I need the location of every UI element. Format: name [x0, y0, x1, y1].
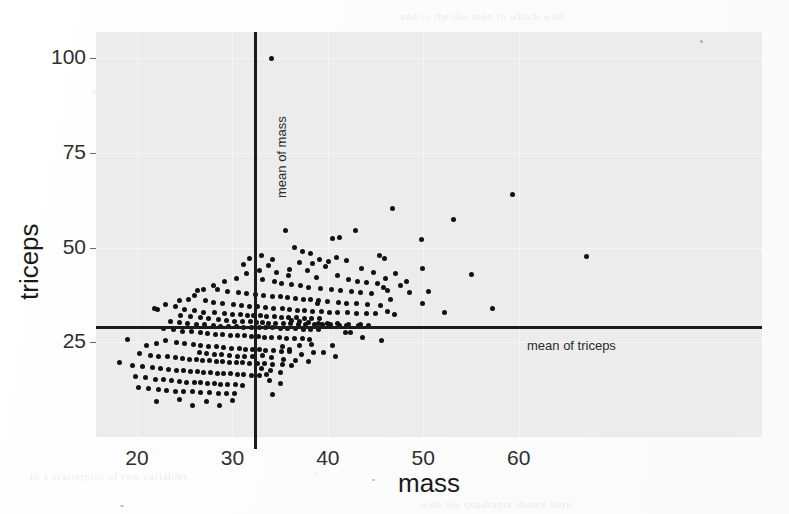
scatter-point [165, 354, 170, 359]
scatter-point [217, 403, 222, 408]
scatter-point [248, 319, 253, 324]
scatter-point [338, 288, 343, 293]
scatter-point [287, 347, 292, 352]
scatter-point [148, 353, 153, 358]
scatter-point [224, 318, 229, 323]
scatter-point [205, 331, 210, 336]
scatter-point [278, 370, 283, 375]
scatter-point [241, 372, 246, 377]
scatter-point [354, 311, 359, 316]
scatter-point [293, 358, 298, 363]
scan-speck [372, 479, 375, 481]
scatter-point [225, 382, 230, 387]
scatter-point [211, 283, 216, 288]
scatter-point [206, 344, 211, 349]
scatter-point [235, 354, 240, 359]
scatter-point [300, 336, 305, 341]
scatter-point [178, 313, 183, 318]
scatter-point [188, 314, 193, 319]
scatter-point [198, 330, 203, 335]
scatter-point [233, 382, 238, 387]
scatter-point [232, 319, 237, 324]
scatter-point [212, 310, 217, 315]
scatter-point [227, 360, 232, 365]
scatter-point [369, 291, 374, 296]
scatter-point [201, 370, 206, 375]
scatter-point [186, 297, 191, 302]
scatter-point [229, 346, 234, 351]
scatter-point [260, 277, 265, 282]
scatter-point [269, 355, 274, 360]
scatter-point [213, 332, 218, 337]
scatter-point [317, 257, 322, 262]
scatter-point [190, 389, 195, 394]
scatter-point [201, 310, 206, 315]
scatter-point [268, 368, 273, 373]
scatter-point [224, 391, 229, 396]
scatter-point [247, 304, 252, 309]
scatter-point [426, 289, 431, 294]
scatter-point [264, 372, 269, 377]
scatter-point [345, 310, 350, 315]
scatter-point [182, 341, 187, 346]
scatter-point [247, 256, 252, 261]
scatter-point [198, 315, 203, 320]
scatter-point [261, 293, 266, 298]
scatter-point [407, 290, 412, 295]
scatter-point [348, 330, 353, 335]
mean-of-mass-label: mean of mass [274, 116, 289, 198]
scatter-point [353, 228, 358, 233]
scatter-point [249, 373, 254, 378]
scatter-point [373, 311, 378, 316]
scatter-point [309, 342, 314, 347]
scatter-point [272, 314, 277, 319]
scatter-point [263, 348, 268, 353]
scatter-point [279, 349, 284, 354]
scatter-point [269, 335, 274, 340]
scatter-point [365, 302, 370, 307]
scatter-point [182, 307, 187, 312]
scatter-point [469, 272, 474, 277]
scatter-point [133, 374, 138, 379]
scatter-point [315, 301, 320, 306]
scatter-point [177, 298, 182, 303]
scatter-point [281, 357, 286, 362]
scatter-point [232, 391, 237, 396]
scatter-point [242, 333, 247, 338]
scatter-point [241, 262, 246, 267]
scatter-point [192, 293, 197, 298]
scatter-point [289, 363, 294, 368]
scatter-point [383, 276, 388, 281]
scatter-point [164, 388, 169, 393]
scatter-point [280, 344, 285, 349]
scatter-point [378, 303, 383, 308]
scatter-point [244, 291, 249, 296]
scatter-point [208, 370, 213, 375]
scatter-point [419, 237, 424, 242]
scatter-point [286, 273, 291, 278]
scatter-point [259, 253, 264, 258]
scatter-point [257, 347, 262, 352]
scatter-point [140, 364, 145, 369]
scatter-point [177, 320, 182, 325]
scatter-point [319, 309, 324, 314]
scatter-point [201, 287, 206, 292]
scatter-point [117, 360, 122, 365]
scatter-point [295, 308, 300, 313]
scatter-point [214, 344, 219, 349]
scatter-point [144, 343, 149, 348]
scatter-point [188, 369, 193, 374]
scatter-point [287, 307, 292, 312]
ghost-text-line: with the quadrants shown here [420, 498, 572, 510]
scatter-point [510, 192, 515, 197]
scatter-point [330, 343, 335, 348]
scatter-point [308, 297, 313, 302]
scatter-point [222, 279, 227, 284]
scatter-point [220, 332, 225, 337]
scatter-point [230, 398, 235, 403]
scatter-point [180, 329, 185, 334]
scatter-point [277, 335, 282, 340]
scatter-point [231, 302, 236, 307]
scatter-point [300, 249, 305, 254]
scatter-point [152, 306, 157, 311]
